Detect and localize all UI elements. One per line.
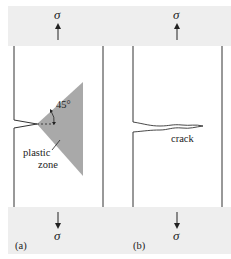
diagram-canvas	[0, 0, 231, 259]
panel-b-label: (b)	[133, 240, 145, 251]
angle-label: 45°	[56, 99, 71, 110]
stress-label-bottom-b: σ	[173, 228, 179, 244]
crack-label: crack	[171, 133, 194, 144]
stress-label-top-a: σ	[54, 7, 60, 23]
arrow-down-icon	[55, 212, 61, 229]
arrow-down-icon	[174, 212, 180, 229]
plastic-zone-label-line1: plastic	[23, 147, 50, 158]
stress-label-bottom-a: σ	[54, 228, 60, 244]
arrow-up-icon	[55, 23, 61, 40]
panel-a-specimen	[14, 23, 103, 229]
plastic-zone-label-line2: zone	[38, 159, 58, 170]
panel-b-specimen	[133, 23, 222, 229]
panel-a-label: (a)	[15, 240, 27, 251]
stress-label-top-b: σ	[173, 7, 179, 23]
arrow-up-icon	[174, 23, 180, 40]
